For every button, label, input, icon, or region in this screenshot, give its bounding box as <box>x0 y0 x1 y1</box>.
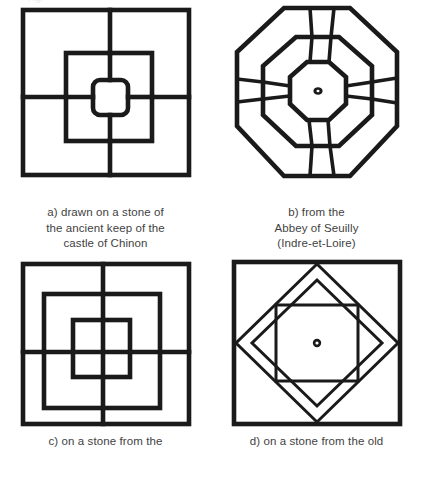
figure-c-caption: c) on a stone from the <box>11 434 201 450</box>
figure-panel-b: b) from the Abbey of Seuilly (Indre-et-L… <box>211 0 422 252</box>
figure-d-drawing <box>211 252 422 434</box>
figure-d-caption: d) on a stone from the old <box>222 434 412 450</box>
figure-a-drawing <box>0 0 211 205</box>
caption-line: the ancient keep of the <box>11 221 201 237</box>
figure-panel-d: d) on a stone from the old <box>211 252 422 450</box>
caption-line: b) from the <box>222 205 412 221</box>
figure-a-caption: a) drawn on a stone of the ancient keep … <box>11 205 201 252</box>
figure-b-caption: b) from the Abbey of Seuilly (Indre-et-L… <box>222 205 412 252</box>
figure-panel-a: a) drawn on a stone of the ancient keep … <box>0 0 211 252</box>
caption-line: castle of Chinon <box>11 236 201 252</box>
figure-panel-c: c) on a stone from the <box>0 252 211 450</box>
caption-line: a) drawn on a stone of <box>11 205 201 221</box>
page-canvas: Fig. <box>0 0 422 493</box>
caption-line: Abbey of Seuilly <box>222 221 412 237</box>
caption-line: d) on a stone from the old <box>222 434 412 450</box>
figure-c-drawing <box>0 252 211 434</box>
figure-grid: a) drawn on a stone of the ancient keep … <box>0 0 422 493</box>
caption-line: (Indre-et-Loire) <box>222 236 412 252</box>
caption-line: c) on a stone from the <box>11 434 201 450</box>
figure-b-drawing <box>211 0 422 205</box>
